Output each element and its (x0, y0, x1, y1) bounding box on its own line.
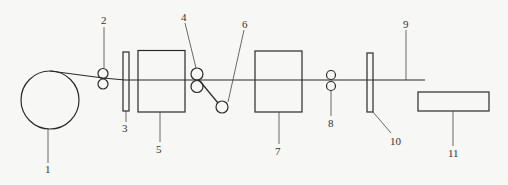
component-11-box: 11 (418, 92, 489, 159)
component-5-box: 5 (138, 51, 185, 156)
component-7-box: 7 (255, 51, 302, 157)
component-10-plate: 10 (367, 53, 402, 147)
label-6: 6 (242, 18, 248, 30)
component-9-strand: 9 (403, 18, 409, 80)
label-9: 9 (403, 18, 409, 30)
label-8: 8 (328, 117, 334, 129)
label-2: 2 (101, 14, 107, 26)
component-8-rollers: 8 (327, 71, 336, 130)
label-4: 4 (181, 11, 187, 23)
label-10: 10 (390, 135, 402, 147)
process-schematic: 1 2 3 5 4 6 7 8 (0, 0, 508, 185)
label-5: 5 (156, 143, 162, 155)
component-1-reel: 1 (21, 71, 79, 175)
label-1: 1 (45, 163, 51, 175)
component-3-plate: 3 (122, 52, 129, 134)
label-11: 11 (448, 147, 459, 159)
label-7: 7 (275, 145, 281, 157)
diagram-canvas: 1 2 3 5 4 6 7 8 (0, 0, 508, 185)
component-6-idler: 6 (216, 18, 248, 113)
label-3: 3 (122, 122, 128, 134)
